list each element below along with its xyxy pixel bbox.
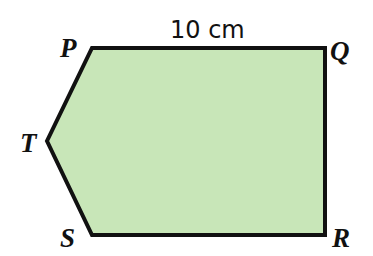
pentagon-diagram: 10 cm P Q R S T [0,0,373,256]
pentagon-PQRST [47,48,325,235]
vertex-label-S: S [60,223,75,253]
vertex-label-Q: Q [330,36,350,66]
side-PQ-length: 10 cm [170,16,245,44]
vertex-label-P: P [59,33,77,63]
vertex-label-T: T [20,128,38,158]
vertex-label-R: R [331,223,350,253]
